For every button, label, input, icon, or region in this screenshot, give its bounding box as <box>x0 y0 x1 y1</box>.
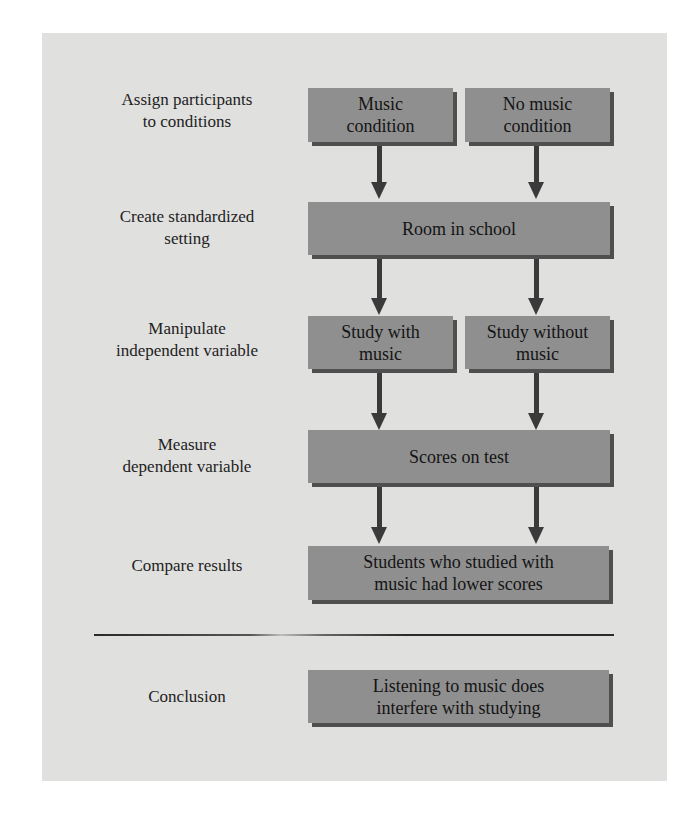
step-label-line: to conditions <box>92 111 282 133</box>
step-label-line: independent variable <box>82 340 292 362</box>
box-text-line: interfere with studying <box>373 697 544 719</box>
box-music-condition: Music condition <box>308 88 453 142</box>
box-text-line: Listening to music does <box>373 675 544 697</box>
step-label-line: dependent variable <box>92 456 282 478</box>
step-label-line: Assign participants <box>92 89 282 111</box>
box-text-line: music <box>341 343 420 365</box>
step-label-line: Compare results <box>92 555 282 577</box>
box-study-with-music: Study with music <box>308 316 453 369</box>
box-text-line: music had lower scores <box>363 573 554 595</box>
step-label-conclusion: Conclusion <box>92 686 282 708</box>
box-text-line: music <box>487 343 589 365</box>
box-text-line: No music <box>503 93 573 115</box>
box-text-line: Study without <box>487 321 589 343</box>
step-label-line: Manipulate <box>82 318 292 340</box>
box-scores-on-test: Scores on test <box>308 430 610 483</box>
step-label-line: Conclusion <box>92 686 282 708</box>
box-study-without-music: Study without music <box>465 316 610 369</box>
box-text-line: Students who studied with <box>363 551 554 573</box>
box-text-line: condition <box>503 115 573 137</box>
step-label-create-setting: Create standardized setting <box>92 206 282 250</box>
step-label-line: setting <box>92 228 282 250</box>
box-text-line: Room in school <box>402 218 516 240</box>
box-room-in-school: Room in school <box>308 202 610 255</box>
step-label-compare-results: Compare results <box>92 555 282 577</box>
diagram-panel <box>42 33 667 781</box>
divider <box>94 634 614 636</box>
step-label-assign: Assign participants to conditions <box>92 89 282 133</box>
box-no-music-condition: No music condition <box>465 88 610 142</box>
box-text-line: Scores on test <box>409 446 509 468</box>
step-label-manipulate-iv: Manipulate independent variable <box>82 318 292 362</box>
step-label-line: Create standardized <box>92 206 282 228</box>
step-label-measure-dv: Measure dependent variable <box>92 434 282 478</box>
box-results: Students who studied with music had lowe… <box>308 546 609 600</box>
step-label-line: Measure <box>92 434 282 456</box>
box-text-line: Study with <box>341 321 420 343</box>
box-conclusion: Listening to music does interfere with s… <box>308 670 609 723</box>
box-text-line: condition <box>347 115 415 137</box>
box-text-line: Music <box>347 93 415 115</box>
